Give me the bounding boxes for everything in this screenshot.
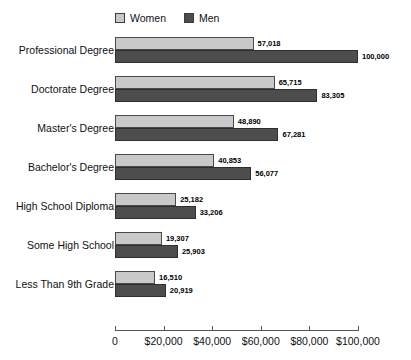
category-label: High School Diploma [2, 200, 114, 213]
bar-women [115, 76, 275, 89]
legend-swatch-men-icon [184, 13, 194, 23]
bar-women [115, 271, 155, 284]
plot-area: Professional Degree57,018100,000Doctorat… [0, 33, 411, 311]
chart-row: Some High School19,30725,903 [0, 232, 411, 259]
x-axis-tick [115, 326, 116, 331]
bar-value-label: 25,182 [176, 193, 203, 206]
chart-row: Master's Degree48,89067,281 [0, 115, 411, 142]
x-axis-tick [164, 326, 165, 331]
x-axis-line [115, 330, 358, 331]
bar-women [115, 193, 176, 206]
bar-men [115, 128, 278, 141]
bar-women [115, 37, 254, 50]
category-label: Doctorate Degree [2, 83, 114, 96]
x-axis-tick-label: 0 [112, 335, 118, 348]
x-axis-tick-label: $100,000 [336, 335, 380, 348]
x-axis-tick [261, 326, 262, 331]
bar-women [115, 232, 162, 245]
bar-value-label: 67,281 [278, 128, 305, 141]
x-axis-tick-label: $80,000 [290, 335, 328, 348]
chart-row: Bachelor's Degree40,85356,077 [0, 154, 411, 181]
bar-women [115, 154, 214, 167]
category-label: Master's Degree [2, 122, 114, 135]
x-axis-tick [309, 326, 310, 331]
bar-value-label: 16,510 [155, 271, 182, 284]
category-label: Some High School [2, 239, 114, 252]
bar-value-label: 83,305 [317, 89, 344, 102]
bar-men [115, 245, 178, 258]
x-axis-tick-label: $40,000 [193, 335, 231, 348]
legend-entry-men: Men [184, 13, 219, 24]
x-axis-tick-label: $60,000 [242, 335, 280, 348]
chart-row: Less Than 9th Grade16,51020,919 [0, 271, 411, 298]
category-label: Less Than 9th Grade [2, 278, 114, 291]
bar-value-label: 56,077 [251, 167, 278, 180]
legend-label-women: Women [130, 13, 166, 24]
bar-value-label: 25,903 [178, 245, 205, 258]
bar-value-label: 20,919 [166, 284, 193, 297]
bar-value-label: 40,853 [214, 154, 241, 167]
bar-value-label: 57,018 [254, 37, 281, 50]
bar-men [115, 167, 251, 180]
bar-men [115, 89, 317, 102]
x-axis-tick-label: $20,000 [145, 335, 183, 348]
chart-row: Professional Degree57,018100,000 [0, 37, 411, 64]
bar-value-label: 48,890 [234, 115, 261, 128]
bar-women [115, 115, 234, 128]
category-label: Bachelor's Degree [2, 161, 114, 174]
legend-swatch-women-icon [115, 13, 125, 23]
bar-value-label: 65,715 [275, 76, 302, 89]
bar-chart: Women Men Professional Degree57,018100,0… [0, 0, 411, 360]
x-axis: 0$20,000$40,000$60,000$80,000$100,000 [0, 330, 411, 360]
x-axis-tick [212, 326, 213, 331]
bar-value-label: 100,000 [358, 50, 389, 63]
chart-row: High School Diploma25,18233,206 [0, 193, 411, 220]
legend-label-men: Men [199, 13, 219, 24]
legend-entry-women: Women [115, 13, 166, 24]
bar-men [115, 206, 196, 219]
bar-value-label: 19,307 [162, 232, 189, 245]
bar-men [115, 284, 166, 297]
bar-men [115, 50, 358, 63]
x-axis-tick [358, 326, 359, 331]
category-label: Professional Degree [2, 44, 114, 57]
chart-legend: Women Men [115, 11, 219, 25]
chart-row: Doctorate Degree65,71583,305 [0, 76, 411, 103]
bar-value-label: 33,206 [196, 206, 223, 219]
